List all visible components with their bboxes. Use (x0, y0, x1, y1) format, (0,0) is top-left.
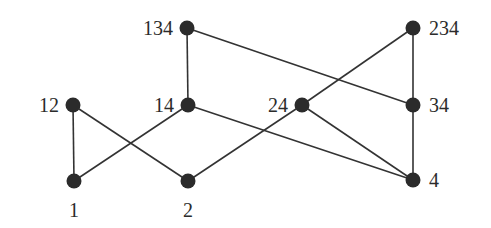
node-234 (406, 21, 421, 36)
node-label-34: 34 (429, 94, 449, 116)
node-4 (406, 173, 421, 188)
edge-134-34 (187, 28, 413, 105)
node-label-1: 1 (69, 199, 79, 221)
hasse-diagram: 12412142434134234 (0, 0, 491, 228)
node-label-12: 12 (39, 94, 59, 116)
edge-1-12 (73, 105, 74, 181)
node-label-14: 14 (154, 94, 174, 116)
nodes-group (66, 21, 421, 189)
edge-24-234 (302, 28, 413, 105)
edge-24-4 (302, 105, 413, 180)
node-14 (181, 98, 196, 113)
node-label-2: 2 (183, 199, 193, 221)
node-label-4: 4 (429, 169, 439, 191)
node-12 (66, 98, 81, 113)
edge-14-4 (188, 105, 413, 180)
node-label-24: 24 (268, 94, 288, 116)
node-label-134: 134 (143, 17, 173, 39)
node-134 (180, 21, 195, 36)
labels-group: 12412142434134234 (39, 17, 459, 221)
node-24 (295, 98, 310, 113)
node-34 (406, 98, 421, 113)
node-2 (181, 174, 196, 189)
node-1 (67, 174, 82, 189)
edge-14-134 (187, 28, 188, 105)
edges-group (73, 28, 413, 181)
node-label-234: 234 (429, 17, 459, 39)
edge-2-24 (188, 105, 302, 181)
